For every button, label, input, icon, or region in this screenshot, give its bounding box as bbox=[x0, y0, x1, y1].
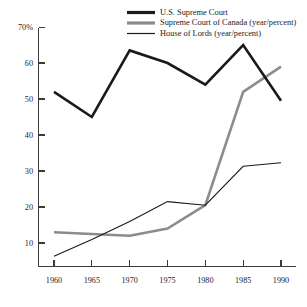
y-tick-label: 30 bbox=[25, 167, 33, 176]
x-tick-label: 1975 bbox=[159, 276, 175, 285]
series-line bbox=[54, 67, 281, 236]
chart-figure: 70%605040302010 196019651970197519801985… bbox=[0, 0, 307, 307]
series-line bbox=[54, 45, 281, 117]
y-tick-label: 10 bbox=[25, 239, 33, 248]
x-tick-label: 1990 bbox=[273, 276, 289, 285]
x-tick-label: 1970 bbox=[121, 276, 137, 285]
x-tick-label: 1960 bbox=[46, 276, 62, 285]
y-tick-label: 50 bbox=[25, 95, 33, 104]
y-axis-ticks: 70%605040302010 bbox=[18, 23, 45, 248]
y-tick-label: 60 bbox=[25, 59, 33, 68]
x-tick-label: 1980 bbox=[197, 276, 213, 285]
x-tick-label: 1985 bbox=[235, 276, 251, 285]
series-group bbox=[54, 45, 281, 256]
y-tick-label: 70% bbox=[18, 23, 33, 32]
legend-label: House of Lords (year/percent) bbox=[160, 29, 261, 38]
chart-legend: U.S. Supreme CourtSupreme Court of Canad… bbox=[127, 8, 296, 38]
series-line bbox=[54, 163, 281, 257]
x-axis-ticks: 1960196519701975198019851990 bbox=[46, 260, 289, 286]
x-tick-label: 1965 bbox=[84, 276, 100, 285]
legend-label: U.S. Supreme Court bbox=[160, 8, 229, 17]
y-tick-label: 20 bbox=[25, 203, 33, 212]
y-tick-label: 40 bbox=[25, 131, 33, 140]
legend-label: Supreme Court of Canada (year/percent) bbox=[160, 18, 296, 27]
line-chart: 70%605040302010 196019651970197519801985… bbox=[0, 0, 307, 307]
